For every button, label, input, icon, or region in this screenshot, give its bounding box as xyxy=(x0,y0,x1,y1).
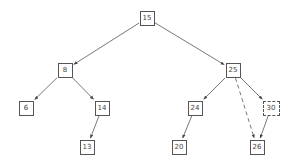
edge-25-to-30 xyxy=(241,78,262,99)
edge-8-to-14 xyxy=(73,78,94,99)
edge-15-to-8 xyxy=(74,23,139,64)
tree-node-13: 13 xyxy=(80,140,95,155)
edge-15-to-25 xyxy=(155,23,224,65)
tree-node-25: 25 xyxy=(226,63,241,78)
tree-node-24: 24 xyxy=(188,101,203,116)
edge-24-to-20 xyxy=(183,116,192,138)
tree-node-26: 26 xyxy=(250,140,265,155)
edge-30-to-26 xyxy=(260,116,268,138)
tree-node-8: 8 xyxy=(58,63,73,78)
edge-25-to-26 xyxy=(235,78,254,138)
tree-node-15: 15 xyxy=(140,11,155,26)
tree-node-14: 14 xyxy=(95,101,110,116)
edge-25-to-24 xyxy=(204,78,225,99)
edge-8-to-6 xyxy=(35,78,57,100)
edge-14-to-13 xyxy=(90,116,98,138)
tree-node-20: 20 xyxy=(172,140,187,155)
tree-node-6: 6 xyxy=(19,101,34,116)
tree-node-30: 30 xyxy=(263,101,280,116)
